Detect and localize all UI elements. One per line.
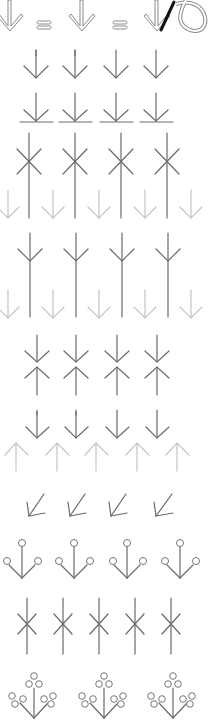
outline-arrow-icon — [69, 0, 95, 31]
line-chevron-icon — [64, 233, 88, 317]
line-chevron-icon — [18, 233, 42, 317]
down-arrow-baseline-icon — [140, 93, 173, 122]
diagonal-arrow-icon — [109, 494, 127, 516]
line-x-icon — [63, 133, 87, 218]
star-icon — [54, 598, 72, 654]
down-arrow-icon — [146, 410, 169, 438]
slash-stroke-icon — [161, 2, 174, 30]
circle-fork-icon — [162, 540, 200, 579]
circle-fork-icon — [4, 540, 42, 579]
light-down-arrow-icon — [180, 190, 202, 218]
circle-cluster-icon — [9, 673, 57, 718]
diagonal-arrow-icon — [154, 494, 173, 516]
row-down-up-pairs — [25, 335, 169, 415]
glyph-diagram — [0, 0, 208, 720]
down-arrow-baseline-icon — [100, 93, 133, 122]
row-three-circle-forks — [4, 540, 200, 579]
line-x-icon — [17, 133, 41, 218]
light-up-arrow-icon — [166, 443, 189, 471]
converging-arrows-icon — [145, 335, 169, 395]
light-down-arrow-icon — [134, 290, 156, 318]
curve-loop-icon — [176, 0, 205, 31]
light-down-arrow-icon — [88, 190, 110, 218]
light-down-arrow-icon — [42, 190, 64, 218]
down-arrow-icon — [144, 50, 168, 78]
row-down-over-up — [5, 410, 189, 471]
down-arrow-icon — [24, 50, 48, 78]
row-diagonal-arrows — [27, 494, 173, 516]
light-up-arrow-icon — [5, 443, 28, 471]
converging-arrows-icon — [64, 335, 88, 395]
light-down-arrow-icon — [0, 290, 19, 318]
down-arrow-baseline-icon — [20, 93, 53, 122]
converging-arrows-icon — [105, 335, 129, 395]
diagonal-arrow-icon — [68, 494, 86, 516]
down-arrow-icon — [106, 410, 129, 438]
row-double-outline-arrows — [0, 0, 205, 56]
line-x-icon — [109, 133, 133, 218]
row-down-arrows-baseline — [20, 93, 173, 122]
line-x-icon — [155, 133, 179, 218]
star-icon — [162, 598, 180, 654]
circle-cluster-icon — [148, 673, 196, 718]
row-simple-down-arrows — [24, 50, 168, 78]
converging-arrows-icon — [25, 335, 49, 395]
equals-icon — [37, 21, 51, 29]
light-down-arrow-icon — [42, 290, 64, 318]
star-icon — [126, 598, 144, 654]
down-arrow-icon — [104, 50, 128, 78]
row-tall-lines-chevron — [0, 233, 202, 318]
line-chevron-icon — [156, 233, 180, 317]
circle-fork-icon — [56, 540, 94, 579]
down-arrow-icon — [63, 50, 87, 78]
down-arrow-baseline-icon — [59, 93, 92, 122]
light-down-arrow-icon — [88, 290, 110, 318]
down-arrow-icon — [65, 410, 88, 438]
row-tall-lines-x — [0, 133, 202, 218]
light-down-arrow-icon — [134, 190, 156, 218]
down-arrow-icon — [26, 410, 49, 438]
diagonal-arrow-icon — [27, 494, 45, 516]
row-circle-clusters — [9, 673, 196, 718]
equals-icon — [113, 21, 127, 29]
circle-cluster-icon — [79, 673, 127, 718]
star-icon — [18, 598, 36, 654]
light-down-arrow-icon — [180, 290, 202, 318]
light-up-arrow-icon — [85, 443, 108, 471]
row-six-point-stars — [18, 598, 180, 654]
line-chevron-icon — [110, 233, 134, 317]
star-icon — [90, 598, 108, 654]
light-down-arrow-icon — [0, 190, 19, 218]
outline-arrow-icon — [0, 0, 23, 31]
circle-fork-icon — [110, 540, 147, 579]
light-up-arrow-icon — [46, 443, 69, 471]
light-up-arrow-icon — [126, 443, 149, 471]
